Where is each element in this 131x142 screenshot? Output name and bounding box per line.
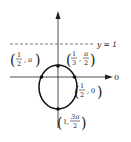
svg-text:3π: 3π — [71, 113, 80, 121]
svg-text:,: , — [67, 118, 69, 126]
svg-text:3: 3 — [72, 59, 76, 67]
label-point-bottom: ( 1 , 3π 2 ) — [57, 113, 86, 131]
point-right — [73, 75, 77, 79]
point-bottom — [56, 107, 60, 111]
point-top — [56, 64, 60, 68]
svg-text:,: , — [24, 56, 26, 64]
polar-axis-arrow-icon — [105, 75, 113, 80]
directrix-label: y = 1 — [96, 40, 117, 49]
svg-text:): ) — [97, 84, 102, 100]
svg-text:π: π — [27, 56, 33, 64]
label-point-right: ( 1 2 , 0 ) — [74, 82, 102, 100]
label-point-top: ( 1 3 , π 2 ) — [66, 50, 95, 68]
svg-text:(: ( — [57, 115, 62, 131]
svg-text:): ) — [90, 52, 95, 68]
svg-text:(: ( — [74, 84, 79, 100]
svg-text:): ) — [35, 52, 40, 68]
svg-text:,: , — [79, 55, 81, 63]
svg-text:): ) — [81, 115, 86, 131]
svg-text:1: 1 — [17, 51, 21, 59]
point-left — [40, 75, 44, 79]
svg-text:2: 2 — [73, 122, 77, 130]
polar-axis-label: 0 — [114, 73, 119, 82]
svg-text:,: , — [87, 87, 89, 95]
svg-text:1: 1 — [72, 50, 76, 58]
svg-text:2: 2 — [80, 91, 84, 99]
svg-text:(: ( — [10, 52, 15, 68]
svg-text:2: 2 — [17, 60, 21, 68]
polar-conic-diagram: 0 y = 1 ( 1 2 , π ) ( 1 3 , π 2 ) ( 1 2 … — [0, 0, 131, 142]
svg-text:π: π — [83, 50, 89, 58]
svg-text:0: 0 — [91, 87, 95, 95]
svg-text:1: 1 — [80, 82, 84, 90]
label-point-left: ( 1 2 , π ) — [10, 51, 40, 68]
svg-text:2: 2 — [84, 59, 88, 67]
vertical-axis-arrow-icon — [56, 11, 61, 19]
svg-text:(: ( — [66, 52, 71, 68]
